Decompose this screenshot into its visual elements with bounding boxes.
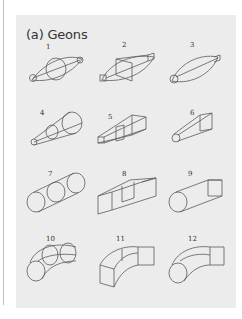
geon-4-drawing	[24, 105, 94, 160]
geon-7: 7	[24, 168, 94, 226]
geon-3: 3	[166, 45, 236, 103]
geon-8-drawing	[94, 168, 164, 223]
geon-4: 4	[24, 105, 94, 163]
geon-10-drawing	[24, 233, 94, 293]
geon-1-drawing	[24, 45, 94, 95]
geon-1: 1	[24, 45, 94, 103]
geon-8: 8	[94, 168, 164, 226]
geon-11-drawing	[94, 233, 164, 293]
figure-title: (a) Geons	[26, 27, 87, 42]
geon-2-drawing	[94, 45, 164, 95]
geon-12-drawing	[166, 233, 236, 293]
geon-2: 2	[94, 45, 164, 103]
geon-5: 5	[94, 105, 164, 163]
geon-12: 12	[166, 233, 236, 291]
geon-7-drawing	[24, 168, 94, 223]
geon-3-drawing	[166, 45, 236, 95]
geon-6-drawing	[166, 105, 236, 160]
geon-10: 10	[24, 233, 94, 291]
geon-6: 6	[166, 105, 236, 163]
geon-5-drawing	[94, 105, 164, 160]
left-margin-rule	[3, 0, 4, 305]
geon-9-drawing	[166, 168, 236, 223]
geon-11: 11	[94, 233, 164, 291]
geons-figure-panel: (a) Geons 1 2 3	[16, 15, 236, 308]
geon-9: 9	[166, 168, 236, 226]
